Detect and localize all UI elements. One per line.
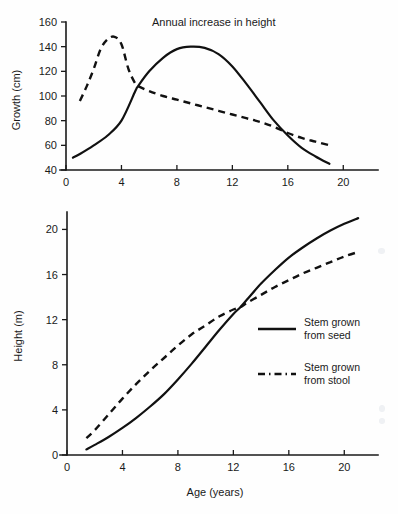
legend-label-seed-line2: from seed — [304, 329, 351, 341]
x-tick-label: 20 — [337, 176, 349, 188]
x-tick-label: 0 — [64, 461, 70, 473]
y-axis-label-top: Growth (cm) — [10, 70, 22, 131]
y-tick-label: 8 — [52, 359, 58, 371]
y-axis-label-bottom: Height (m) — [12, 310, 24, 361]
chart-top-svg: Annual increase in height Growth (cm) 40… — [0, 0, 398, 196]
y-tick-label: 80 — [45, 115, 57, 127]
legend-label-seed-line1: Stem grown — [304, 316, 360, 328]
legend-label-stool-line1: Stem grown — [304, 361, 360, 373]
x-tick-label: 16 — [282, 176, 294, 188]
chart-height-vs-age: Height (m) Age (years) 048121620 0481216… — [0, 196, 398, 514]
y-tick-label: 20 — [46, 223, 58, 235]
series-stem-from-stool-top — [80, 37, 330, 146]
y-tick-label: 12 — [46, 314, 58, 326]
x-tick-label: 8 — [175, 461, 181, 473]
x-tick-label: 12 — [226, 176, 238, 188]
y-tick-label: 140 — [39, 41, 57, 53]
scan-artifact — [378, 248, 385, 254]
y-tick-label: 4 — [52, 404, 58, 416]
chart-title-top: Annual increase in height — [152, 16, 276, 28]
x-tick-label: 4 — [118, 176, 124, 188]
y-tick-label: 0 — [52, 449, 58, 461]
x-tick-label: 0 — [63, 176, 69, 188]
x-tick-label: 12 — [227, 461, 239, 473]
scan-artifact — [379, 418, 385, 424]
scan-artifact — [379, 405, 385, 412]
x-tick-label: 4 — [119, 461, 125, 473]
y-ticks-bottom: 048121620 — [46, 223, 67, 461]
x-axis-label-bottom: Age (years) — [187, 486, 244, 498]
y-tick-label: 160 — [39, 16, 57, 28]
y-tick-label: 120 — [39, 65, 57, 77]
x-ticks-bottom: 048121620 — [64, 450, 350, 473]
y-tick-label: 60 — [45, 139, 57, 151]
x-tick-label: 16 — [283, 461, 295, 473]
x-ticks-top: 048121620 — [63, 165, 349, 188]
y-tick-label: 16 — [46, 269, 58, 281]
y-tick-label: 40 — [45, 164, 57, 176]
legend-label-stool-line2: from stool — [304, 374, 350, 386]
x-tick-label: 20 — [338, 461, 350, 473]
chart-bottom-svg: Height (m) Age (years) 048121620 0481216… — [0, 196, 398, 514]
chart-annual-increase: Annual increase in height Growth (cm) 40… — [0, 0, 398, 196]
y-tick-label: 100 — [39, 90, 57, 102]
y-ticks-top: 406080100120140160 — [39, 16, 66, 176]
legend: Stem grown from seed Stem grown from sto… — [258, 316, 360, 386]
figure-page: Annual increase in height Growth (cm) 40… — [0, 0, 398, 514]
series-stem-from-stool-bottom — [86, 252, 358, 438]
x-tick-label: 8 — [174, 176, 180, 188]
